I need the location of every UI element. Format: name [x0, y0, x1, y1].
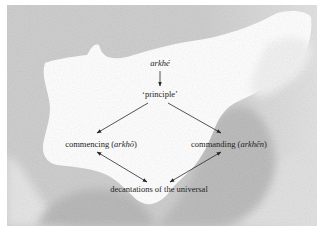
- node-commanding-term: arkhên: [240, 139, 264, 149]
- node-commencing-suffix: ): [134, 139, 137, 149]
- node-commencing-term: arkhô: [114, 139, 134, 149]
- arrow-principle-to-commanding: [168, 103, 221, 133]
- double-arrow-commanding-decantations: [170, 152, 221, 182]
- node-commencing-prefix: commencing (: [65, 139, 114, 149]
- node-commanding-prefix: commanding (: [191, 139, 240, 149]
- arrow-principle-to-commencing: [97, 103, 148, 133]
- node-commanding: commanding (arkhên): [191, 139, 267, 149]
- node-principle: ‘principle’: [142, 89, 178, 99]
- node-commencing: commencing (arkhô): [65, 139, 137, 149]
- node-arkhe: arkhé: [150, 58, 169, 68]
- node-decantations: decantations of the universal: [110, 184, 207, 194]
- diagram-arrows: [0, 0, 323, 239]
- double-arrow-commencing-decantations: [97, 152, 147, 182]
- node-commanding-suffix: ): [264, 139, 267, 149]
